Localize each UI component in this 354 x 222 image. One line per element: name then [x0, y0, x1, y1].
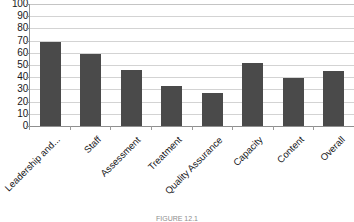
y-axis-tick-mark [26, 65, 29, 66]
y-axis-tick-mark [26, 41, 29, 42]
x-axis-tick-mark [192, 126, 193, 130]
x-axis-tick-mark [151, 126, 152, 130]
y-axis-tick-mark [26, 89, 29, 90]
bar-slot [111, 4, 152, 126]
x-axis-category-label: Treatment [146, 134, 184, 172]
x-axis-category-label: Staff [81, 134, 102, 155]
y-axis-tick-mark [26, 16, 29, 17]
bar[interactable] [283, 78, 304, 126]
y-axis-tick-label: 20 [2, 97, 28, 107]
plot-box [29, 4, 354, 126]
x-axis-tick-marks [29, 126, 354, 130]
bar[interactable] [202, 93, 223, 126]
bar[interactable] [40, 42, 61, 126]
x-axis-category-labels: Leadership and...StaffAssessmentTreatmen… [29, 134, 354, 214]
x-axis-category-label: Overall [317, 134, 346, 163]
y-axis-tick-label: 100 [2, 0, 28, 9]
y-axis-tick-label: 40 [2, 72, 28, 82]
bar[interactable] [161, 86, 182, 126]
bar[interactable] [242, 63, 263, 126]
x-axis-category-label: Leadership and... [3, 134, 63, 194]
y-axis-tick-mark [26, 77, 29, 78]
bar-slot [30, 4, 71, 126]
x-axis-category-label: Capacity [231, 134, 265, 168]
y-axis-tick-mark [26, 102, 29, 103]
bar-slot [152, 4, 193, 126]
figure-caption: FIGURE 12.1 [0, 214, 354, 222]
y-axis-tick-labels: 1009080706050403020100 [0, 4, 28, 126]
y-axis-tick-mark [26, 114, 29, 115]
bar-series [30, 4, 354, 126]
bar[interactable] [80, 54, 101, 126]
bar-slot [273, 4, 314, 126]
chart-plot-area: 1009080706050403020100 Leadership and...… [0, 4, 354, 130]
y-axis-tick-mark [26, 28, 29, 29]
x-axis-category-label: Content [275, 134, 306, 165]
y-axis-tick-label: 90 [2, 11, 28, 21]
y-axis-tick-label: 10 [2, 109, 28, 119]
bar[interactable] [121, 70, 142, 126]
bar-slot [192, 4, 233, 126]
x-axis-category-label: Assessment [99, 134, 143, 178]
y-axis-tick-label: 50 [2, 60, 28, 70]
x-axis-tick-mark [232, 126, 233, 130]
y-axis-tick-label: 0 [2, 121, 28, 131]
bar-slot [314, 4, 354, 126]
y-axis-tick-label: 70 [2, 36, 28, 46]
bar-slot [71, 4, 112, 126]
bar-slot [233, 4, 274, 126]
y-axis-tick-label: 30 [2, 84, 28, 94]
y-axis-tick-label: 80 [2, 23, 28, 33]
x-axis-tick-mark [110, 126, 111, 130]
bar-chart-figure: 1009080706050403020100 Leadership and...… [0, 0, 354, 222]
x-axis-tick-mark [273, 126, 274, 130]
y-axis-tick-label: 60 [2, 48, 28, 58]
bar[interactable] [323, 71, 344, 126]
y-axis-tick-mark [26, 4, 29, 5]
y-axis-tick-mark [26, 53, 29, 54]
x-axis-tick-mark [70, 126, 71, 130]
x-axis-tick-mark [313, 126, 314, 130]
x-axis-tick-mark [29, 126, 30, 130]
